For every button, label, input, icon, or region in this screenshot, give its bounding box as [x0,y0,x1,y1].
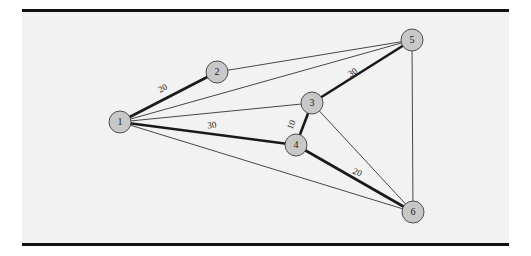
node-label-5: 5 [410,34,415,45]
edge-weight-3-4: 10 [285,118,298,131]
graph-node-4[interactable]: 4 [285,134,307,156]
node-label-2: 2 [215,66,220,77]
node-label-4: 4 [294,139,299,150]
edge-layer [120,40,413,212]
graph-edge-1-2 [120,72,217,122]
graph-edge-4-6 [296,145,413,212]
node-label-6: 6 [411,206,416,217]
node-label-1: 1 [118,116,123,127]
edge-weight-1-4: 30 [207,119,218,130]
graph-canvas: 2030103020 123456 [0,0,531,256]
graph-edge-5-6 [412,40,413,212]
edge-weight-1-2: 20 [156,81,169,94]
graph-node-1[interactable]: 1 [109,111,131,133]
graph-figure: 2030103020 123456 [0,0,531,256]
graph-edge-3-5 [312,40,412,103]
edge-weight-3-5: 30 [346,65,359,79]
graph-node-5[interactable]: 5 [401,29,423,51]
graph-edge-1-6 [120,122,413,212]
node-label-3: 3 [310,97,315,108]
graph-node-6[interactable]: 6 [402,201,424,223]
graph-edge-3-6 [312,103,413,212]
graph-node-2[interactable]: 2 [206,61,228,83]
graph-node-3[interactable]: 3 [301,92,323,114]
